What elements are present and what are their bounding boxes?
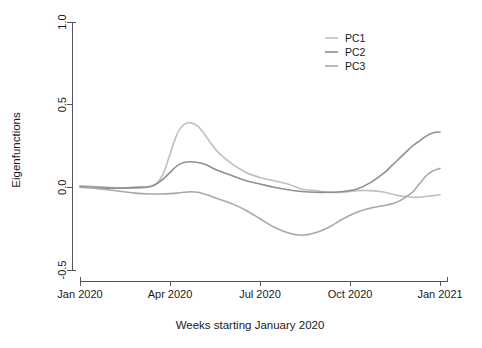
x-tick-label-1: Apr 2020 [148,288,193,300]
chart-legend: PC1PC2PC3 [325,32,366,72]
y-tick-label-3: -0.5 [56,261,68,280]
x-tick-label-2: Jul 2020 [239,288,281,300]
y-tick-label-2: 0.0 [56,180,68,195]
x-tick-label-4: Jan 2021 [417,288,462,300]
series-line-pc3 [80,168,440,235]
x-axis-ticks [80,281,440,286]
series-line-pc1 [80,123,440,198]
chart-panel: 1.00.50.0-0.5 Jan 2020Apr 2020Jul 2020Oc… [0,0,482,348]
y-axis-line [72,22,76,270]
legend-label-pc1: PC1 [345,32,366,44]
y-tick-label-1: 0.5 [56,97,68,112]
x-tick-label-3: Oct 2020 [328,288,373,300]
series-line-pc2 [80,132,440,192]
y-axis-ticks [67,22,72,270]
x-axis-title: Weeks starting January 2020 [176,319,325,331]
series-lines [80,123,440,236]
y-tick-label-0: 1.0 [56,14,68,29]
legend-label-pc3: PC3 [345,60,366,72]
legend-label-pc2: PC2 [345,46,366,58]
x-tick-label-0: Jan 2020 [57,288,102,300]
x-axis-tick-labels: Jan 2020Apr 2020Jul 2020Oct 2020Jan 2021 [57,288,462,300]
x-axis-line [80,277,447,281]
eigenfunctions-line-chart: 1.00.50.0-0.5 Jan 2020Apr 2020Jul 2020Oc… [0,0,482,348]
y-axis-title: Eigenfunctions [10,112,22,188]
y-axis-tick-labels: 1.00.50.0-0.5 [56,14,68,279]
